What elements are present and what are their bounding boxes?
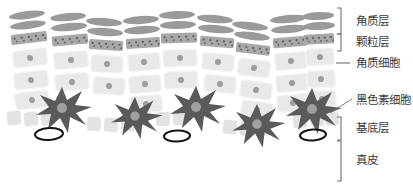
label-text-keratinocyte: 角质细胞	[356, 56, 401, 70]
label-text-dermis: 真皮	[356, 153, 379, 167]
keratinocyte	[307, 70, 336, 88]
keratinocyte	[12, 47, 48, 68]
label-text-melanocyte: 黑色素细胞	[356, 93, 412, 107]
skin-structure-diagram: 角质层颗粒层角质细胞黑色素细胞基底层真皮	[0, 0, 413, 187]
keratinocyte	[203, 74, 236, 94]
keratinocyte	[127, 52, 160, 71]
keratinocyte	[128, 74, 161, 93]
keratinocyte	[239, 80, 273, 101]
label-text-basal-layer: 基底层	[356, 121, 389, 135]
basal-cell	[6, 110, 21, 125]
keratinocyte	[275, 73, 308, 93]
keratinocyte	[92, 76, 125, 95]
label-text-stratum-corneum: 角质层	[356, 14, 389, 28]
keratinocyte	[201, 52, 234, 72]
basal-cell	[87, 117, 102, 132]
basal-cell	[23, 111, 38, 126]
keratinocyte	[237, 58, 271, 79]
keratinocyte	[274, 51, 307, 71]
keratinocyte	[90, 54, 123, 73]
keratinocyte	[53, 50, 88, 70]
skin-cross-section-svg: 角质层颗粒层角质细胞黑色素细胞基底层真皮	[0, 0, 413, 187]
granular-cell	[161, 32, 197, 43]
keratinocyte	[164, 71, 199, 89]
basal-cell	[222, 119, 237, 134]
granular-cell	[304, 33, 334, 45]
keratinocyte	[306, 48, 335, 66]
keratinocyte	[13, 69, 49, 90]
keratinocyte	[163, 49, 198, 67]
keratinocyte	[54, 72, 89, 92]
basal-cell	[156, 112, 170, 126]
label-text-granular-layer: 颗粒层	[356, 35, 389, 49]
